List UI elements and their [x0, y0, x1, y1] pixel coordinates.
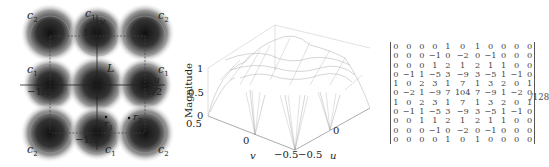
- label-c2-top-left: c2: [27, 10, 38, 24]
- matrix-cell: 0: [499, 135, 509, 144]
- matrix-scale: /128: [530, 92, 549, 102]
- tick-u-neg-half: −1/2: [27, 87, 51, 97]
- matrix-cell: 0: [391, 135, 401, 144]
- matrix-cell: 0: [508, 135, 524, 144]
- matrix-cell: 0: [482, 135, 498, 144]
- matrix-cell: 0: [453, 135, 473, 144]
- tick-v-pos-half: 1/2: [83, 28, 99, 38]
- tick-v-neg-half: −1/2: [75, 135, 99, 145]
- matrix-cell: 0: [401, 135, 417, 144]
- label-r2: r2: [133, 112, 142, 125]
- u-tick-neg0.5: −0.5: [298, 150, 322, 160]
- matrix-row: 00001010000: [391, 135, 535, 144]
- label-axis-u: u: [154, 76, 160, 85]
- matrix-cell: 1: [473, 135, 483, 144]
- v-tick-neg0.5: −0.5: [274, 150, 298, 160]
- label-c1-left: c1: [27, 64, 38, 78]
- u-tick-0: 0: [333, 126, 339, 136]
- label-c1-bottom: c1: [105, 144, 116, 158]
- label-c2-bottom-left: c2: [27, 144, 38, 158]
- label-axis-v: v: [100, 18, 105, 27]
- u-axis-label: u: [330, 151, 336, 161]
- matrix-cell: 0: [525, 135, 535, 144]
- z-tick-1: 1: [197, 64, 203, 74]
- lattice-diagram: c2 c1 c2 v 1/2 c1 L c1 u −1/2 1/2 r1 r2 …: [0, 0, 180, 167]
- v-tick-0: 0: [243, 136, 249, 146]
- z-tick-0.5: 0.5: [188, 88, 204, 98]
- coefficient-matrix: 00001010000000−10−20−1000000121211000−11…: [370, 0, 545, 167]
- label-region-L: L: [107, 63, 114, 74]
- matrix-cell: 0: [417, 135, 427, 144]
- label-c2-top-right: c2: [158, 10, 169, 24]
- v-axis-label: v: [250, 151, 256, 161]
- label-r1: r1: [104, 119, 113, 132]
- label-c1-top: c1: [85, 8, 96, 22]
- tick-u-pos-half: 1/2: [146, 87, 162, 97]
- matrix-table: 00001010000000−10−20−1000000121211000−11…: [390, 42, 535, 144]
- v-tick-0.5: 0.5: [186, 119, 202, 129]
- matrix-bracket: 00001010000000−10−20−1000000121211000−11…: [390, 42, 535, 144]
- matrix-cell: 0: [427, 135, 443, 144]
- surface-graphic: [180, 0, 370, 167]
- magnitude-surface-plot: Magnitude 1 0.5 0 0.5 0 −0.5 −0.5 0 v u: [180, 0, 370, 167]
- label-c2-bottom-right: c2: [158, 144, 169, 158]
- matrix-cell: 1: [443, 135, 453, 144]
